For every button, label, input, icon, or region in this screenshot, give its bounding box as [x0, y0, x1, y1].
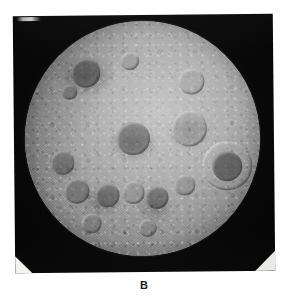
- print-scratch-mark-icon: [17, 17, 41, 21]
- figure-caption-label: B: [0, 279, 288, 292]
- moon-limb-shading: [24, 20, 261, 257]
- figure-lunar-far-side: B: [0, 0, 288, 300]
- photo-corner-bottom-left: [15, 256, 32, 273]
- moon-image: [24, 20, 261, 257]
- photo-corner-bottom-right: [255, 251, 275, 271]
- moon-disc: [24, 20, 261, 257]
- photo-print: [13, 14, 275, 273]
